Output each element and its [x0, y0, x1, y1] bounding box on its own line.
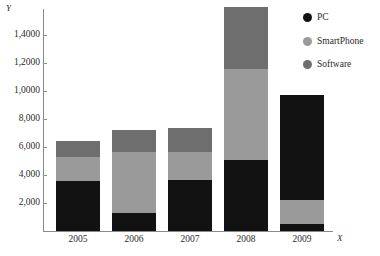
- bar-segment-2005-software: [56, 141, 100, 157]
- bar-segment-2005-smartphone: [56, 157, 100, 181]
- bar-segment-2005-pc: [56, 181, 100, 231]
- chart-legend: PCSmartPhoneSoftware: [303, 13, 380, 84]
- y-axis-title: Y: [6, 3, 11, 13]
- bar-segment-2006-software: [112, 130, 156, 152]
- x-axis-line: [43, 231, 333, 232]
- legend-label: PC: [317, 13, 329, 23]
- x-tick-label-2008: 2008: [216, 234, 276, 244]
- y-tick-label: 4,000: [0, 169, 40, 179]
- bar-segment-2008-pc: [224, 160, 268, 231]
- y-tick-label: 1,4000: [0, 29, 40, 39]
- bar-segment-2007-pc: [168, 180, 212, 231]
- bar-2008: [224, 7, 268, 231]
- bar-segment-2006-smartphone: [112, 152, 156, 213]
- legend-swatch-icon: [303, 60, 312, 69]
- stacked-bar-chart: Y X 2,0004,0006,0008,0001,00001,20001,40…: [0, 0, 380, 256]
- bar-segment-2009-pc: [280, 224, 324, 231]
- legend-swatch-icon: [303, 37, 312, 46]
- plot-area: [44, 0, 333, 231]
- bar-segment-2008-software: [224, 7, 268, 69]
- legend-swatch-icon: [303, 13, 312, 22]
- x-tick-label-2005: 2005: [48, 234, 108, 244]
- bar-segment-2009-pc: [280, 95, 324, 200]
- bar-segment-2006-pc: [112, 213, 156, 231]
- x-axis-title: X: [337, 233, 343, 243]
- bar-2006: [112, 130, 156, 231]
- bar-segment-2009-smartphone: [280, 200, 324, 224]
- bar-2005: [56, 141, 100, 231]
- legend-item-software[interactable]: Software: [303, 60, 380, 70]
- bar-segment-2007-software: [168, 128, 212, 152]
- bar-2009: [280, 95, 324, 231]
- y-tick-label: 1,2000: [0, 57, 40, 67]
- legend-item-pc[interactable]: PC: [303, 13, 380, 23]
- bar-2007: [168, 128, 212, 231]
- y-tick-label: 2,000: [0, 197, 40, 207]
- x-tick-label-2006: 2006: [104, 234, 164, 244]
- bar-segment-2008-smartphone: [224, 69, 268, 160]
- x-tick-label-2007: 2007: [160, 234, 220, 244]
- y-tick-label: 1,0000: [0, 85, 40, 95]
- legend-item-smartphone[interactable]: SmartPhone: [303, 37, 380, 47]
- bar-segment-2007-smartphone: [168, 152, 212, 180]
- y-tick-label: 8,000: [0, 113, 40, 123]
- y-tick-label: 6,000: [0, 141, 40, 151]
- legend-label: Software: [317, 60, 351, 70]
- legend-label: SmartPhone: [317, 37, 363, 47]
- x-tick-label-2009: 2009: [272, 234, 332, 244]
